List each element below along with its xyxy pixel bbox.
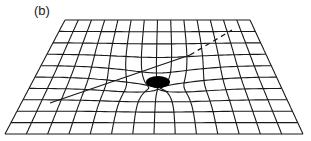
grid-column-line — [90, 20, 118, 134]
curved-grid-diagram — [0, 0, 311, 141]
grid-row-line — [29, 88, 281, 92]
trajectory-dashed — [190, 30, 232, 55]
central-mass — [146, 76, 170, 88]
grid-column-line — [184, 20, 197, 134]
grid-column-line — [133, 20, 149, 134]
grid-column-line — [69, 20, 105, 134]
